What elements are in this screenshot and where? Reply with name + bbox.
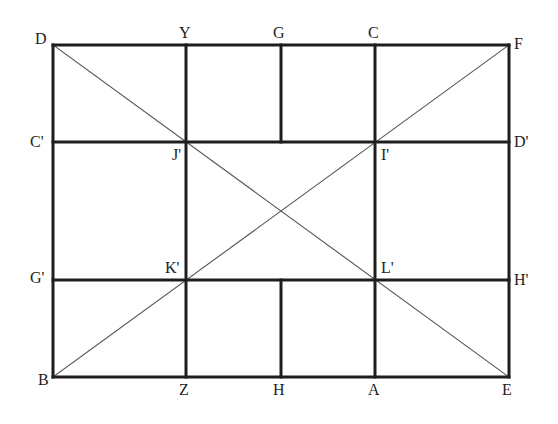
point-label-I-prime: I' bbox=[381, 147, 389, 163]
point-label-D: D bbox=[35, 31, 47, 47]
point-label-Z: Z bbox=[179, 382, 189, 398]
point-label-F: F bbox=[514, 36, 523, 52]
point-label-H: H bbox=[273, 382, 285, 398]
point-label-D-prime: D' bbox=[514, 134, 528, 150]
point-label-K-prime: K' bbox=[165, 260, 179, 276]
point-label-C-prime: C' bbox=[30, 134, 44, 150]
point-label-L-prime: L' bbox=[381, 260, 394, 276]
point-label-G-prime: G' bbox=[30, 270, 44, 286]
point-label-B: B bbox=[38, 372, 49, 388]
point-label-A: A bbox=[368, 382, 380, 398]
point-label-C: C bbox=[368, 25, 379, 41]
point-label-Y: Y bbox=[179, 25, 191, 41]
point-label-G: G bbox=[273, 25, 285, 41]
point-label-H-prime: H' bbox=[514, 272, 528, 288]
point-label-J-prime: J' bbox=[172, 147, 181, 163]
point-label-E: E bbox=[502, 382, 512, 398]
diagram-canvas bbox=[0, 0, 558, 424]
